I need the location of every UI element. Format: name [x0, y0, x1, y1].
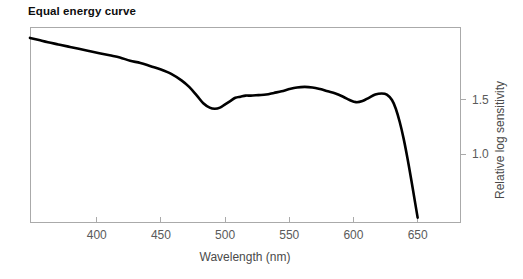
y-axis-tick-marks	[460, 100, 466, 154]
x-tick-label-550: 550	[279, 228, 299, 242]
x-tick-label-500: 500	[215, 228, 235, 242]
x-tick-label-600: 600	[343, 228, 363, 242]
x-axis-tick-marks	[97, 217, 418, 222]
y-axis-title: Relative log sensitivity	[493, 81, 507, 199]
data-series-group	[30, 38, 418, 218]
x-tick-label-450: 450	[151, 228, 171, 242]
x-tick-label-650: 650	[408, 228, 428, 242]
y-tick-label-1-5: 1.5	[472, 93, 489, 107]
x-tick-label-400: 400	[87, 228, 107, 242]
chart-figure: Equal energy curve 400 450 500 550 600 6…	[0, 0, 523, 279]
axes-frame	[30, 27, 460, 222]
line-series-equal-energy-curve	[30, 38, 418, 218]
x-axis-title: Wavelength (nm)	[200, 250, 291, 264]
y-tick-label-1-0: 1.0	[472, 147, 489, 161]
chart-plot-area	[0, 0, 523, 279]
plot-frame	[30, 27, 460, 222]
